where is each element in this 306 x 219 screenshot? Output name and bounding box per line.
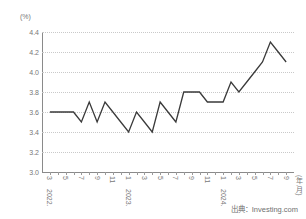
chart-figure: (%) 3.03.23.43.63.84.04.24.4 (年,月) 32022… [0,0,306,219]
x-axis-month-label: 5 [251,176,258,180]
x-axis-month-label: 7 [78,176,85,180]
x-axis-month-label: 1 [125,176,132,180]
y-axis-tick-label: 4.2 [29,49,39,56]
x-axis-month-label: 5 [157,176,164,180]
x-axis-year-label: 2023. [125,189,132,207]
x-axis-year-label: 2022. [46,189,53,207]
x-axis-month-label: 11 [204,176,211,183]
x-axis-month-label: 11 [109,176,116,183]
data-line-series [42,32,294,172]
x-axis-month-label: 3 [235,176,242,180]
y-axis-tick-label: 3.6 [29,109,39,116]
y-axis-unit-label: (%) [20,13,31,20]
x-axis-unit-label: (年,月) [296,175,303,196]
y-axis-tick-label: 3.2 [29,149,39,156]
plot-area: 3.03.23.43.63.84.04.24.4 (年,月) 32022.579… [42,32,294,172]
y-axis-tick-label: 3.4 [29,129,39,136]
x-axis-month-label: 3 [46,176,53,180]
x-axis-month-label: 9 [188,176,195,180]
y-axis-tick-label: 4.0 [29,69,39,76]
y-axis-tick-label: 4.4 [29,29,39,36]
x-axis-month-label: 3 [141,176,148,180]
x-axis-month-label: 5 [62,176,69,180]
x-axis-year-label: 2024. [220,189,227,207]
source-credit: 出典：Investing.com [231,203,298,214]
y-axis-tick-label: 3.0 [29,169,39,176]
x-axis-month-label: 7 [172,176,179,180]
x-axis-month-label: 7 [267,176,274,180]
x-axis-month-label: 9 [283,176,290,180]
x-axis-month-label: 1 [220,176,227,180]
y-axis-tick-label: 3.8 [29,89,39,96]
x-axis-month-label: 9 [94,176,101,180]
